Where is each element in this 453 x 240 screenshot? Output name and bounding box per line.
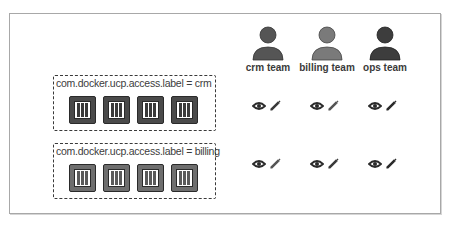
group-label: com.docker.ucp.access.label = crm <box>56 77 211 89</box>
team-label: ops team <box>355 62 415 73</box>
pencil-icon <box>386 100 397 111</box>
permission-billing-group-billing-team <box>310 158 339 169</box>
access-label-group-billing: com.docker.ucp.access.label = billing <box>53 143 216 199</box>
pencil-icon <box>386 158 397 169</box>
team-label: billing team <box>297 62 357 73</box>
pencil-icon <box>270 158 281 169</box>
eye-icon <box>368 159 382 169</box>
container-row <box>69 96 198 124</box>
container-row <box>69 164 198 192</box>
pencil-icon <box>328 158 339 169</box>
access-label-group-crm: com.docker.ucp.access.label = crm <box>53 75 216 131</box>
permission-billing-group-crm-team <box>252 158 281 169</box>
eye-icon <box>252 101 266 111</box>
permission-crm-group-billing-team <box>310 100 339 111</box>
container-icon <box>69 96 96 124</box>
container-icon <box>171 96 198 124</box>
group-label: com.docker.ucp.access.label = billing <box>56 145 220 157</box>
team-label: crm team <box>238 62 298 73</box>
user-icon <box>365 26 405 62</box>
eye-icon <box>252 159 266 169</box>
container-icon <box>137 164 164 192</box>
container-icon <box>171 164 198 192</box>
user-icon <box>307 26 347 62</box>
eye-icon <box>368 101 382 111</box>
eye-icon <box>310 159 324 169</box>
container-icon <box>137 96 164 124</box>
user-icon <box>248 26 288 62</box>
permission-crm-group-crm-team <box>252 100 281 111</box>
permission-billing-group-ops-team <box>368 158 397 169</box>
team-crm: crm team <box>238 26 298 73</box>
container-icon <box>103 96 130 124</box>
eye-icon <box>310 101 324 111</box>
container-icon <box>103 164 130 192</box>
pencil-icon <box>328 100 339 111</box>
team-ops: ops team <box>355 26 415 73</box>
team-billing: billing team <box>297 26 357 73</box>
container-icon <box>69 164 96 192</box>
permission-crm-group-ops-team <box>368 100 397 111</box>
pencil-icon <box>270 100 281 111</box>
